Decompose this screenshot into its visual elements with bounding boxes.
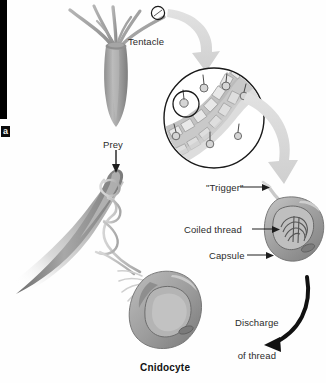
- label-capsule: Capsule: [209, 250, 245, 261]
- label-discharge-of-thread: Discharge of thread: [235, 295, 279, 383]
- discharge-line-1: Discharge: [235, 317, 279, 328]
- figure-part-letter: a: [1, 126, 10, 137]
- polyp-illustration: [70, 6, 165, 127]
- label-prey: Prey: [103, 139, 123, 150]
- discharged-cnidocyte: [129, 271, 201, 348]
- figure-caption: Cnidocyte: [140, 362, 190, 373]
- arrow-polyp-to-inset: [167, 9, 220, 72]
- discharge-line-2: of thread: [235, 350, 279, 361]
- label-coiled-thread: Coiled thread: [184, 224, 242, 235]
- label-trigger: "Trigger": [206, 182, 243, 193]
- cnidocyte-figure: a Tentacle Prey "Trigger" Coiled thread …: [0, 0, 326, 383]
- label-tentacle: Tentacle: [128, 36, 164, 47]
- undischarged-cnidocyte: [263, 182, 324, 261]
- page-edge-bar: [0, 0, 7, 119]
- tentacle-magnification-inset: [162, 52, 264, 170]
